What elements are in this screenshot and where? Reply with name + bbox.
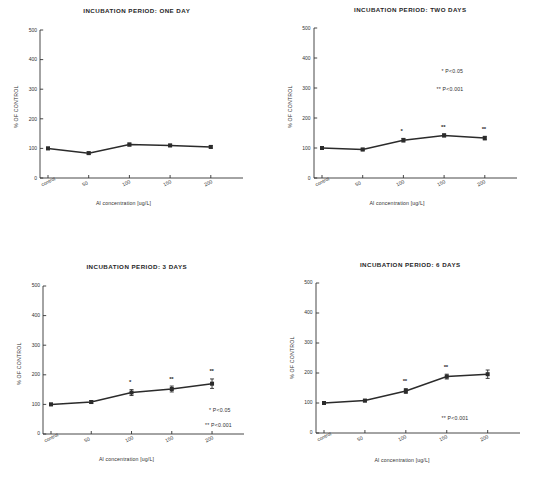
y-tick-label: 100 xyxy=(295,399,313,405)
y-tick-label: 400 xyxy=(19,56,37,62)
y-tick-label: 0 xyxy=(22,430,40,436)
y-tick-label: 200 xyxy=(19,116,37,122)
chart-plot xyxy=(0,0,275,241)
y-tick-label: 500 xyxy=(295,279,313,285)
y-tick-label: 400 xyxy=(22,312,40,318)
y-tick-label: 400 xyxy=(295,309,313,315)
y-tick-label: 300 xyxy=(19,86,37,92)
chart-plot xyxy=(274,241,547,481)
chart-plot xyxy=(0,241,275,481)
y-tick-label: 500 xyxy=(22,282,40,288)
y-tick-label: 0 xyxy=(293,175,311,181)
significance-marker: ** xyxy=(169,376,173,382)
y-tick-label: 300 xyxy=(22,342,40,348)
y-tick-label: 300 xyxy=(293,85,311,91)
significance-marker: ** xyxy=(441,124,445,130)
significance-marker: ** xyxy=(210,368,214,374)
y-tick-label: 200 xyxy=(295,369,313,375)
y-tick-label: 500 xyxy=(293,25,311,31)
y-tick-label: 500 xyxy=(19,27,37,33)
significance-marker: * xyxy=(129,379,131,385)
chart-panel-three-days: INCUBATION PERIOD: 3 DAYS % OF CONTROL A… xyxy=(0,241,274,481)
y-tick-label: 0 xyxy=(295,429,313,435)
y-tick-label: 100 xyxy=(19,145,37,151)
chart-panel-six-days: INCUBATION PERIOD: 6 DAYS % OF CONTROL A… xyxy=(274,241,547,481)
chart-plot xyxy=(274,0,547,241)
y-tick-label: 400 xyxy=(293,55,311,61)
y-tick-label: 300 xyxy=(295,339,313,345)
significance-marker: ** xyxy=(444,364,448,370)
y-tick-label: 100 xyxy=(22,401,40,407)
significance-marker: * xyxy=(400,128,402,134)
significance-marker: ** xyxy=(482,126,486,132)
significance-marker: ** xyxy=(403,378,407,384)
y-tick-label: 100 xyxy=(293,145,311,151)
y-tick-label: 200 xyxy=(293,115,311,121)
figure-panel-grid: INCUBATION PERIOD: ONE DAY % OF CONTROL … xyxy=(0,0,547,481)
chart-panel-two-days: INCUBATION PERIOD: TWO DAYS % OF CONTROL… xyxy=(274,0,547,241)
chart-panel-one-day: INCUBATION PERIOD: ONE DAY % OF CONTROL … xyxy=(0,0,274,241)
y-tick-label: 0 xyxy=(19,175,37,181)
y-tick-label: 200 xyxy=(22,371,40,377)
